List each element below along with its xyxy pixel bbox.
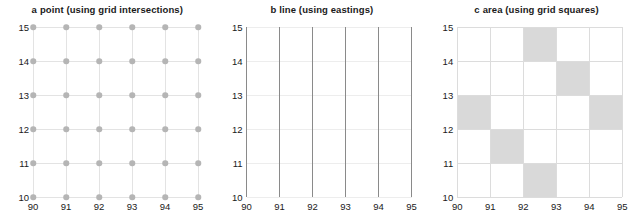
easting-line-91 [279, 27, 280, 197]
gridline-horizontal [33, 61, 198, 62]
x-tick-label-92: 92 [518, 201, 529, 212]
gridline-vertical [589, 27, 590, 197]
y-tick-label-14: 14 [232, 56, 243, 67]
grid-intersection-dot [162, 160, 168, 166]
gridline-vertical [523, 27, 524, 197]
y-tick-label-13: 13 [443, 90, 454, 101]
grid-intersection-dot [129, 58, 135, 64]
grid-intersection-dot [63, 194, 69, 200]
grid-intersection-dot [96, 194, 102, 200]
x-tick-label-95: 95 [193, 201, 204, 212]
gridline-horizontal [247, 197, 412, 198]
x-tick-label-91: 91 [61, 201, 72, 212]
gridline-horizontal [247, 95, 412, 96]
easting-line-92 [312, 27, 313, 197]
grid-intersection-dot [162, 126, 168, 132]
shaded-grid-square-9214 [523, 27, 556, 61]
gridline-vertical [165, 27, 166, 197]
gridline-horizontal [33, 27, 198, 28]
panel-c-title: carea (using grid squares) [429, 4, 644, 15]
panel-a-letter: a [32, 4, 37, 15]
grid-intersection-dot [30, 160, 36, 166]
grid-intersection-dot [63, 58, 69, 64]
gridline-horizontal [457, 197, 622, 198]
x-tick-label-90: 90 [452, 201, 463, 212]
grid-intersection-dot [195, 194, 201, 200]
panel-c-title-text: area (using grid squares) [483, 4, 599, 15]
gridline-horizontal [457, 61, 622, 62]
grid-intersection-dot [96, 24, 102, 30]
x-tick-label-93: 93 [127, 201, 138, 212]
x-tick-label-94: 94 [373, 201, 384, 212]
gridline-horizontal [457, 163, 622, 164]
gridline-horizontal [33, 95, 198, 96]
grid-intersection-dot [30, 194, 36, 200]
x-tick-label-91: 91 [274, 201, 285, 212]
grid-intersection-dot [63, 92, 69, 98]
panel-a-title: apoint (using grid intersections) [0, 4, 215, 15]
y-tick-label-15: 15 [443, 22, 454, 33]
grid-intersection-dot [195, 92, 201, 98]
y-tick-label-11: 11 [443, 158, 453, 169]
grid-intersection-dot [96, 160, 102, 166]
grid-reference-figure: apoint (using grid intersections) 101112… [0, 0, 644, 224]
y-tick-label-12: 12 [232, 124, 243, 135]
shaded-grid-square-9210 [523, 163, 556, 197]
shaded-grid-square-9412 [589, 95, 622, 129]
gridline-horizontal [457, 95, 622, 96]
grid-intersection-dot [195, 126, 201, 132]
y-tick-label-15: 15 [18, 22, 29, 33]
grid-intersection-dot [63, 160, 69, 166]
x-tick-label-94: 94 [584, 201, 595, 212]
x-tick-label-91: 91 [485, 201, 496, 212]
y-tick-label-13: 13 [18, 90, 29, 101]
gridline-horizontal [247, 61, 412, 62]
x-tick-label-90: 90 [241, 201, 252, 212]
easting-line-93 [345, 27, 346, 197]
grid-intersection-dot [63, 24, 69, 30]
panel-c-plot-area: 101112131415 909192939495 [457, 27, 622, 197]
shaded-grid-square-9313 [556, 61, 589, 95]
gridline-vertical [198, 27, 199, 197]
gridline-vertical [622, 27, 623, 197]
y-tick-label-12: 12 [18, 124, 29, 135]
x-tick-label-92: 92 [307, 201, 318, 212]
gridline-vertical [490, 27, 491, 197]
gridline-vertical [457, 27, 458, 197]
grid-intersection-dot [162, 58, 168, 64]
grid-intersection-dot [162, 194, 168, 200]
grid-intersection-dot [129, 126, 135, 132]
shaded-grid-square-9111 [490, 129, 523, 163]
gridline-horizontal [33, 129, 198, 130]
panel-a-plot-area: 101112131415 909192939495 [33, 27, 198, 197]
x-tick-label-95: 95 [406, 201, 417, 212]
x-tick-label-93: 93 [340, 201, 351, 212]
y-tick-label-13: 13 [232, 90, 243, 101]
panel-a-point: apoint (using grid intersections) 101112… [0, 0, 215, 224]
easting-line-94 [378, 27, 379, 197]
gridline-horizontal [33, 197, 198, 198]
y-tick-label-11: 11 [19, 158, 29, 169]
easting-line-95 [411, 27, 412, 197]
gridline-vertical [33, 27, 34, 197]
shaded-grid-square-9012 [457, 95, 490, 129]
x-tick-label-90: 90 [28, 201, 39, 212]
y-tick-label-15: 15 [232, 22, 243, 33]
grid-intersection-dot [162, 24, 168, 30]
y-tick-label-14: 14 [443, 56, 454, 67]
easting-line-90 [246, 27, 247, 197]
y-tick-label-12: 12 [443, 124, 454, 135]
gridline-vertical [66, 27, 67, 197]
grid-intersection-dot [195, 24, 201, 30]
panel-b-plot-area: 101112131415 909192939495 [247, 27, 412, 197]
grid-intersection-dot [30, 24, 36, 30]
grid-intersection-dot [162, 92, 168, 98]
x-tick-label-92: 92 [94, 201, 105, 212]
panel-b-title-text: line (using eastings) [279, 4, 373, 15]
grid-intersection-dot [96, 92, 102, 98]
grid-intersection-dot [96, 58, 102, 64]
x-tick-label-95: 95 [617, 201, 628, 212]
gridline-horizontal [247, 129, 412, 130]
grid-intersection-dot [129, 24, 135, 30]
grid-intersection-dot [195, 58, 201, 64]
